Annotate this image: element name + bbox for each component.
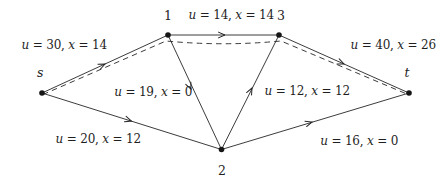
edge-label-2-3-xval: = 12 (318, 84, 350, 98)
edge-label-s-2-xval: = 12 (109, 132, 141, 146)
edge-label-2-t: u = 16, x = 0 (306, 123, 398, 159)
edge-label-s-1-uval: = 30, (29, 38, 68, 52)
edge-label-s-1-uvar: u (22, 38, 30, 52)
edge-label-3-t-uval: = 40, (358, 38, 397, 52)
edge-label-3-t-xval: = 26 (404, 38, 436, 52)
edge-label-1-3: u = 14, x = 14 (174, 0, 274, 33)
edge-label-s-1: u = 30, x = 14 (7, 27, 107, 63)
node-3-dot (276, 32, 282, 38)
edge-label-2-t-uval: = 16, (328, 134, 367, 148)
edge-label-s-2-uvar: u (56, 132, 64, 146)
node-label-1: 1 (164, 10, 172, 23)
node-label-2: 2 (218, 165, 226, 178)
edge-label-2-3-uval: = 12, (272, 84, 311, 98)
edge-label-3-t-uvar: u (351, 38, 359, 52)
edge-label-1-2: u = 19, x = 0 (100, 74, 192, 110)
node-1-dot (165, 32, 171, 38)
node-t-dot (406, 90, 412, 96)
node-s-dot (39, 90, 45, 96)
edge-label-2-t-uvar: u (320, 134, 328, 148)
node-label-s: s (37, 67, 43, 80)
node-label-t: t (405, 67, 410, 80)
edge-label-1-3-xval: = 14 (242, 8, 274, 22)
edge-label-s-1-xval: = 14 (75, 38, 107, 52)
edge-label-2-3-uvar: u (265, 84, 273, 98)
flow-network-diagram: s 1 2 3 t u = 30, x = 14 u = 20, x = 12 … (0, 0, 445, 183)
edge-label-1-3-uvar: u (189, 8, 197, 22)
edge-label-1-2-xval: = 0 (168, 85, 193, 99)
node-2-dot (219, 147, 225, 153)
edge-label-3-t: u = 40, x = 26 (336, 27, 436, 63)
edge-label-1-2-uval: = 19, (122, 85, 161, 99)
edge-label-1-2-uvar: u (114, 85, 122, 99)
edge-label-1-3-uval: = 14, (196, 8, 235, 22)
edge-label-2-3: u = 12, x = 12 (250, 73, 350, 109)
edge-label-2-t-xval: = 0 (374, 134, 399, 148)
node-label-3: 3 (277, 10, 285, 23)
edge-label-s-2: u = 20, x = 12 (41, 121, 141, 157)
edge-label-s-2-uval: = 20, (63, 132, 102, 146)
